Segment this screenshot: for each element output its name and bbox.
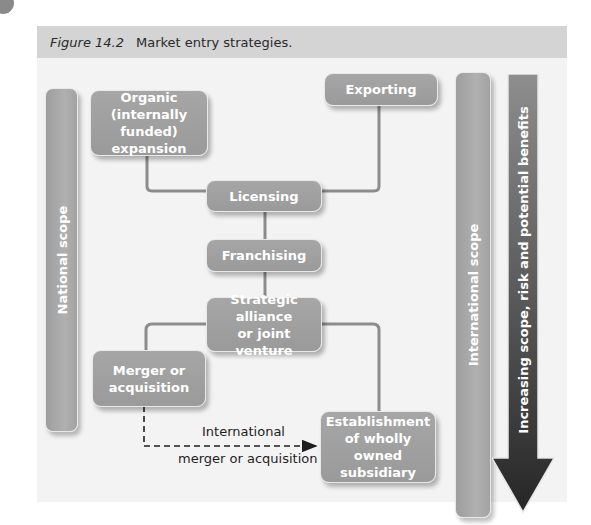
node-subsidiary-line-3: subsidiary	[321, 464, 435, 481]
node-wholly-owned-subsidiary: Establishment of wholly owned subsidiary	[320, 411, 436, 483]
node-franchising-label: Franchising	[222, 247, 307, 264]
node-subsidiary-line-2: of wholly owned	[321, 430, 435, 464]
node-merger-line-2: acquisition	[109, 379, 190, 396]
node-alliance-line-2: or joint venture	[207, 325, 321, 359]
international-scope-label: International scope	[466, 224, 481, 367]
node-organic-line-3: expansion	[91, 140, 207, 157]
dashed-arrow-label-line-1: International	[202, 424, 285, 439]
edge-alliance-subsidiary	[322, 324, 379, 412]
node-strategic-alliance: Strategic alliance or joint venture	[206, 297, 322, 352]
node-merger-line-1: Merger or	[109, 362, 190, 379]
node-merger-acquisition: Merger or acquisition	[92, 350, 206, 407]
node-franchising: Franchising	[206, 239, 322, 272]
node-alliance-line-1: Strategic alliance	[207, 291, 321, 325]
node-licensing: Licensing	[206, 180, 322, 212]
node-subsidiary-line-1: Establishment	[321, 413, 435, 430]
edge-organic-licensing	[147, 155, 208, 191]
edge-exporting-licensing	[322, 104, 379, 191]
node-organic-line-2: (internally funded)	[91, 106, 207, 140]
node-licensing-label: Licensing	[229, 188, 298, 205]
node-exporting: Exporting	[324, 73, 438, 106]
national-scope-label: National scope	[54, 206, 69, 315]
node-exporting-label: Exporting	[345, 81, 416, 98]
international-scope-bar: International scope	[455, 72, 491, 518]
increasing-arrow-label: Increasing scope, risk and potential ben…	[516, 106, 531, 433]
dashed-arrow-label-line-2: merger or acquisition	[178, 451, 317, 466]
national-scope-bar: National scope	[45, 88, 78, 432]
node-organic-line-1: Organic	[91, 89, 207, 106]
node-organic-expansion: Organic (internally funded) expansion	[90, 90, 208, 156]
edge-alliance-merger	[146, 324, 208, 350]
